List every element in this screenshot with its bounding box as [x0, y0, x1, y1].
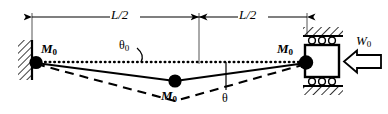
- label-theta0-subscript: 0: [125, 43, 130, 53]
- roller-bottom-2: [319, 78, 326, 85]
- label-mass-middle-subscript: 0: [173, 94, 178, 104]
- roller-bottom-1: [309, 78, 316, 85]
- roller-bottom-3: [329, 78, 336, 85]
- engineering-diagram: L/2 L/2 M0 M0 M0 W0 θ0 θ: [0, 0, 388, 114]
- lower-guide-hatching: [303, 86, 343, 95]
- diagram-canvas: [0, 0, 388, 114]
- label-angle-theta: θ: [222, 92, 228, 104]
- label-mass-left-subscript: 0: [53, 47, 58, 57]
- dimension-lines: [32, 13, 307, 64]
- label-mass-right-subscript: 0: [289, 47, 294, 57]
- label-angle-theta0: θ0: [119, 39, 129, 53]
- label-mass-middle-symbol: M: [161, 88, 173, 103]
- roller-top-1: [309, 37, 316, 44]
- dimension-label-right: L/2: [239, 8, 256, 21]
- node-mass-left: [29, 56, 42, 69]
- force-arrow-w0: [344, 51, 381, 73]
- label-mass-left-symbol: M: [41, 41, 53, 56]
- dimension-label-left: L/2: [111, 8, 128, 21]
- label-force-w0: W0: [356, 34, 371, 49]
- label-mass-right-symbol: M: [277, 41, 289, 56]
- roller-top-2: [319, 37, 326, 44]
- label-mass-middle: M0: [161, 89, 177, 104]
- node-mass-right: [299, 55, 313, 69]
- label-force-symbol: W: [356, 33, 367, 48]
- node-mass-middle: [168, 74, 181, 87]
- theta0-leader-arc: [137, 48, 142, 62]
- label-force-subscript: 0: [367, 39, 372, 49]
- upper-guide-hatching: [303, 27, 343, 36]
- label-mass-left: M0: [41, 42, 57, 57]
- roller-top-3: [329, 37, 336, 44]
- label-mass-right: M0: [277, 42, 293, 57]
